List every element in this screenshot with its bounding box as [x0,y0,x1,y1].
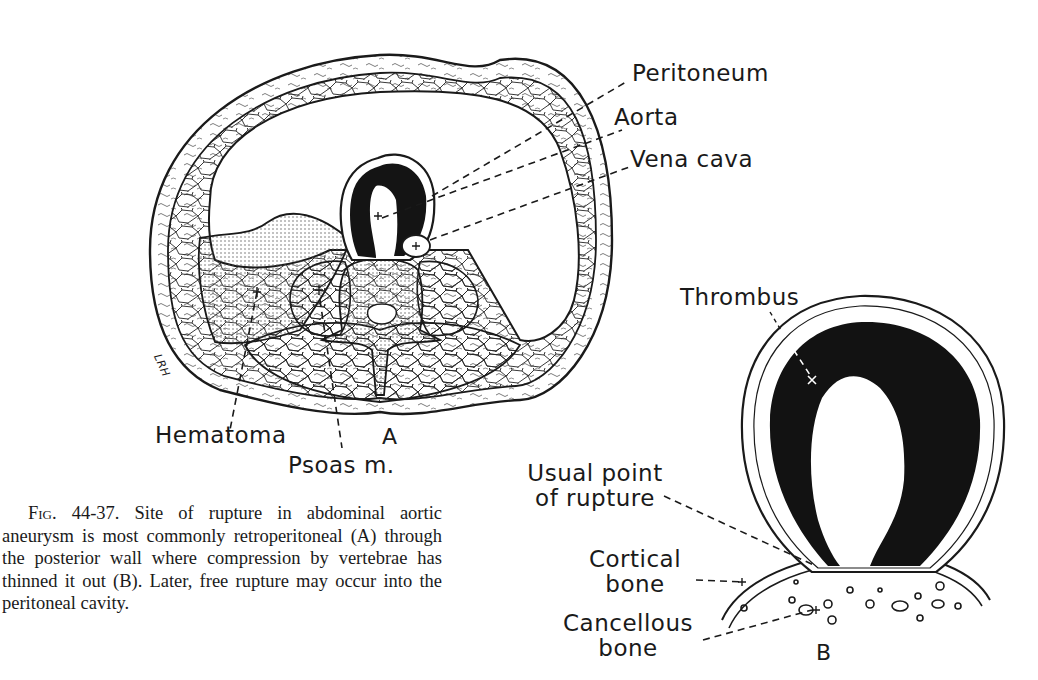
panel-a-label: A [382,424,397,449]
label-rupture-line1: Usual point [520,462,670,485]
label-cancellous-line1: Cancellous [548,612,708,635]
label-peritoneum: Peritoneum [632,62,769,85]
vena-cava [402,235,430,257]
panel-b-label: B [816,640,831,665]
textbook-page: Peritoneum Aorta Vena cava Hematoma Psoa… [0,0,1038,680]
label-psoas: Psoas m. [288,454,395,477]
figure-number: Fig. 44-37. [28,503,119,523]
label-cancellous-bone: Cancellous bone [548,612,708,660]
label-hematoma: Hematoma [155,424,287,447]
label-cortical-line1: Cortical [568,548,702,571]
aneurysm-detail-b [664,296,1004,640]
label-cortical-line2: bone [568,573,702,596]
label-vena-cava: Vena cava [630,148,753,171]
label-thrombus: Thrombus [680,286,799,309]
label-cortical-bone: Cortical bone [568,548,702,596]
figure-caption: Fig. 44-37. Site of rupture in abdominal… [2,502,442,615]
cancellous-bone-pores [741,580,961,624]
label-aorta: Aorta [614,106,678,129]
label-rupture-point: Usual point of rupture [520,462,670,510]
label-cancellous-line2: bone [548,637,708,660]
label-rupture-line2: of rupture [520,487,670,510]
